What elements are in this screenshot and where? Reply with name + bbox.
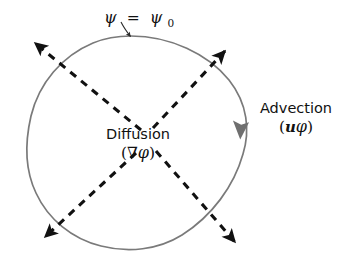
diffusion-label: Diffusion bbox=[106, 126, 170, 142]
phi-symbol-advection: φ bbox=[296, 117, 308, 136]
contour-value-label: ψ = ψ 0 bbox=[104, 8, 174, 29]
nabla-icon: ∇ bbox=[127, 144, 138, 162]
psi-base-symbol: ψ bbox=[150, 8, 163, 27]
advection-label: Advection bbox=[260, 100, 332, 116]
equals-sign: = bbox=[127, 9, 140, 27]
psi-subscript: 0 bbox=[167, 17, 174, 29]
advection-operator-label: (uφ) bbox=[279, 117, 313, 136]
phi-symbol-diffusion: φ bbox=[138, 143, 150, 162]
diffusion-operator-label: (∇φ) bbox=[121, 143, 155, 162]
velocity-symbol: u bbox=[285, 118, 296, 136]
psi-symbol: ψ bbox=[104, 8, 117, 27]
figure-root: ψ = ψ 0 Diffusion (∇φ) Advection (uφ) bbox=[0, 0, 341, 264]
advection-diffusion-diagram: ψ = ψ 0 Diffusion (∇φ) Advection (uφ) bbox=[0, 0, 341, 264]
